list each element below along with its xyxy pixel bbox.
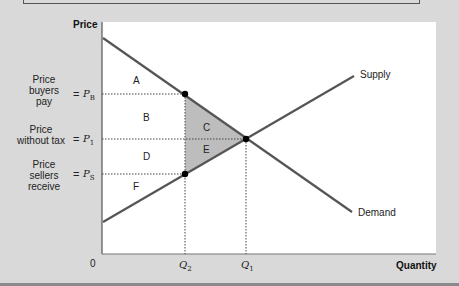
equals-sign: =	[73, 168, 79, 180]
region-e-label: E	[203, 144, 210, 155]
buyers-price-point	[182, 91, 188, 97]
sellers-price-point	[182, 171, 188, 177]
price-without-tax-label: Price without tax	[8, 124, 74, 146]
supply-label: Supply	[360, 69, 391, 80]
ps-symbol: PS	[83, 168, 95, 182]
origin-label: 0	[90, 258, 96, 269]
q2-tick-label: Q2	[179, 259, 192, 273]
q1-tick-label: Q1	[241, 259, 254, 273]
region-c-label: C	[203, 122, 210, 133]
p1-symbol: P1	[83, 133, 94, 147]
label-line: Price	[14, 74, 74, 85]
region-d-label: D	[143, 151, 150, 162]
price-buyers-pay-label: Price buyers pay	[14, 74, 74, 107]
label-line: receive	[14, 181, 74, 192]
pb-symbol: PB	[83, 88, 95, 102]
label-line: sellers	[14, 170, 74, 181]
label-line: Price	[14, 159, 74, 170]
region-f-label: F	[133, 181, 139, 192]
label-line: pay	[14, 96, 74, 107]
equals-sign: =	[73, 88, 79, 100]
x-axis-title: Quantity	[396, 260, 437, 271]
price-sellers-receive-label: Price sellers receive	[14, 159, 74, 192]
label-line: buyers	[14, 85, 74, 96]
label-line: Price	[8, 124, 74, 135]
region-b-label: B	[143, 112, 150, 123]
equals-sign: =	[73, 133, 79, 145]
region-a-label: A	[133, 75, 140, 86]
plot-area	[102, 22, 436, 254]
equilibrium-point	[243, 136, 249, 142]
demand-label: Demand	[358, 207, 396, 218]
label-line: without tax	[8, 135, 74, 146]
y-axis-title: Price	[73, 19, 97, 30]
